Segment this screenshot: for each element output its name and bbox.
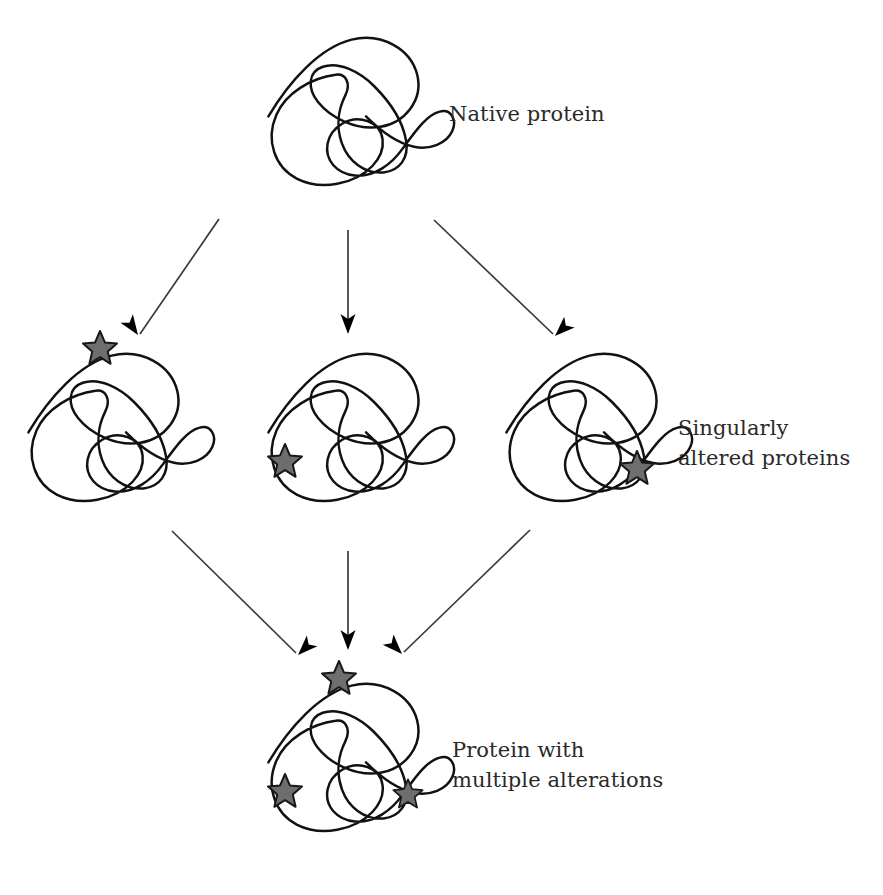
multiply-altered-protein: [268, 661, 454, 831]
altered-protein-center: [268, 354, 454, 501]
label-singular-line-1: Singularly: [678, 416, 788, 440]
arrow-native-to-center: [341, 230, 356, 334]
arrow-native-to-left: [120, 219, 219, 339]
protein-chain-icon: [506, 354, 692, 501]
alteration-star-icon: [393, 779, 422, 807]
protein-chain-icon: [28, 354, 214, 501]
label-native-protein: Native protein: [449, 100, 605, 130]
arrow-native-to-right: [434, 220, 575, 341]
label-singularly-altered-proteins: Singularlyaltered proteins: [678, 414, 850, 474]
label-singular-line-2: altered proteins: [678, 446, 850, 470]
label-multiple-line-2: multiple alterations: [452, 768, 663, 792]
arrowhead-icon: [293, 636, 318, 661]
protein-chain-icon: [268, 38, 454, 185]
arrowhead-icon: [120, 314, 144, 339]
altered-protein-right: [506, 354, 692, 501]
protein-alteration-diagram: Native protein Singularlyaltered protein…: [0, 0, 883, 895]
protein-chain-icon: [268, 354, 454, 501]
alteration-star-icon: [268, 444, 302, 477]
alteration-star-icon: [268, 774, 302, 807]
label-multiple-line-1: Protein with: [452, 738, 584, 762]
protein-chain-icon: [268, 684, 454, 831]
label-protein-multiple-alterations: Protein withmultiple alterations: [452, 736, 663, 796]
native-protein: [268, 38, 454, 185]
arrowhead-icon: [383, 634, 408, 659]
arrowhead-icon: [550, 317, 575, 342]
arrow-right-to-bottom: [383, 530, 530, 659]
arrow-left-to-bottom: [172, 531, 317, 660]
arrow-center-to-bottom: [341, 551, 356, 650]
altered-protein-left: [28, 331, 214, 501]
alteration-star-icon: [620, 451, 654, 484]
